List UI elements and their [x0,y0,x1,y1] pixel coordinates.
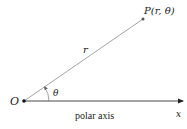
point-p [142,18,145,21]
point-label: P(r, θ) [143,5,175,16]
polar-axis-label: polar axis [75,110,114,121]
polar-coordinate-diagram: O P(r, θ) r θ polar axis x [0,0,187,129]
angle-arc [45,87,49,101]
radius-label: r [83,44,89,55]
x-axis-label: x [176,109,181,119]
origin-label: O [10,95,19,108]
origin-point [22,99,26,103]
angle-label: θ [53,88,59,98]
radius-ray [24,19,143,101]
